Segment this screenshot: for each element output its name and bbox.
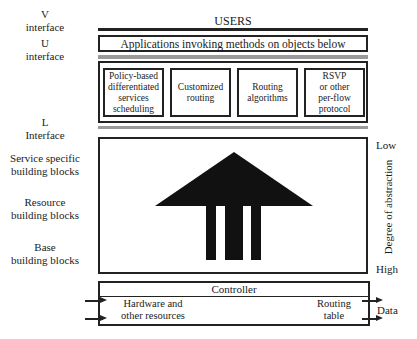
u-interface-label: U interface [0, 37, 90, 63]
users-label: USERS [98, 14, 368, 29]
output-arrow-top-icon [376, 297, 383, 303]
input-arrow-bottom-icon [100, 315, 107, 321]
abstraction-low-label: Low [376, 139, 396, 151]
input-arrow-top-icon [100, 297, 107, 303]
applications-box: Applications invoking methods on objects… [98, 35, 368, 52]
v-interface-label: V interface [0, 8, 90, 34]
v-interface-rail [98, 28, 368, 31]
l-interface-label: L Interface [0, 116, 90, 142]
base-label: Base building blocks [0, 241, 90, 267]
service-box-customized-routing: Customized routing [170, 68, 231, 117]
service-specific-label: Service specific building blocks [0, 152, 90, 178]
abstraction-arrow-icon [98, 137, 368, 274]
l-interface-rail [98, 126, 368, 129]
service-box-routing-algorithms: Routing algorithms [237, 68, 298, 117]
routing-table-label: Routing table [306, 298, 362, 322]
abstraction-high-label: High [376, 263, 398, 275]
abstraction-axis-label: Degree of abstraction [382, 152, 396, 262]
output-arrow-bottom-line [362, 318, 377, 320]
service-box-rsvp: RSVP or other per-flow protocol [304, 68, 365, 117]
service-box-policy-scheduling: Policy-based differentiated services sch… [103, 68, 164, 117]
u-interface-rail [98, 55, 368, 59]
hardware-resources-label: Hardware and other resources [108, 298, 198, 322]
controller-title: Controller [98, 283, 370, 295]
applications-label: Applications invoking methods on objects… [120, 38, 345, 50]
output-arrow-top-line [362, 300, 377, 302]
data-label: Data [377, 304, 398, 316]
resource-label: Resource building blocks [0, 196, 90, 222]
controller-divider [100, 296, 368, 297]
